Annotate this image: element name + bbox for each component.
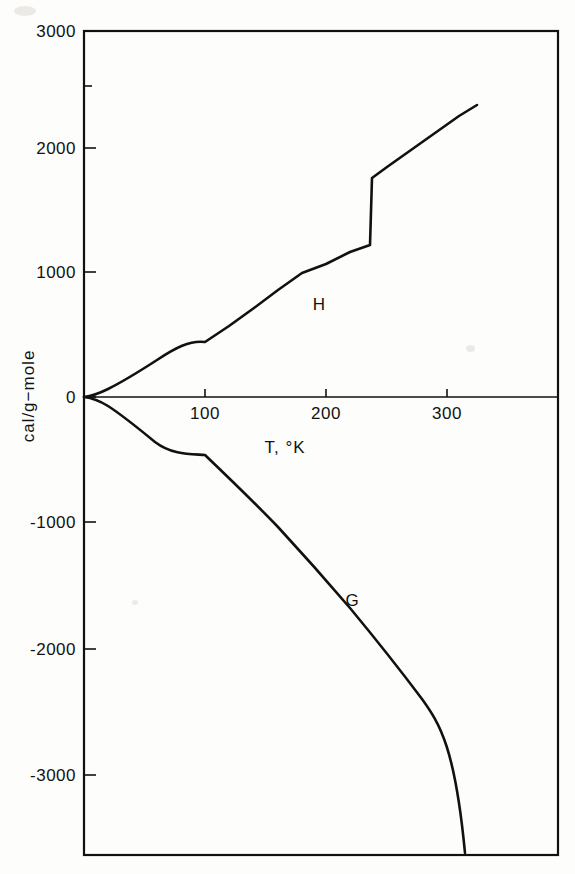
series-label-G: G xyxy=(345,591,358,610)
chart-svg: 100 200 300 3000 2000 1000 0 -1000 -2000… xyxy=(0,0,575,874)
series-label-H: H xyxy=(313,295,325,314)
y-tick-label-minus2000: -2000 xyxy=(30,640,76,659)
series-curve-G xyxy=(84,397,465,853)
x-tick-marks xyxy=(205,389,447,397)
y-tick-label-3000: 3000 xyxy=(36,22,76,41)
y-tick-label-2000: 2000 xyxy=(36,139,76,158)
x-tick-label-100: 100 xyxy=(190,404,220,423)
y-tick-label-minus1000: -1000 xyxy=(30,513,76,532)
y-axis-title: cal/g−mole xyxy=(19,350,38,443)
y-tick-label-1000: 1000 xyxy=(36,263,76,282)
figure-canvas: 100 200 300 3000 2000 1000 0 -1000 -2000… xyxy=(0,0,575,874)
y-tick-marks xyxy=(84,31,96,775)
x-tick-label-200: 200 xyxy=(311,404,341,423)
x-axis-title: T, °K xyxy=(264,438,305,457)
y-tick-label-minus3000: -3000 xyxy=(30,766,76,785)
series-curve-H-line xyxy=(84,105,477,397)
x-tick-label-300: 300 xyxy=(432,404,462,423)
y-tick-label-0: 0 xyxy=(66,388,76,407)
